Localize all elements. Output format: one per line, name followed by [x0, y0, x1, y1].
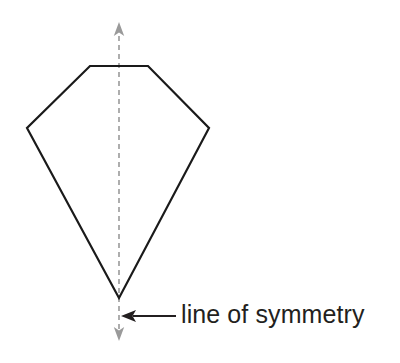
symmetry-arrowhead-top-icon	[114, 22, 124, 36]
pentagon-shape	[27, 66, 209, 298]
symmetry-arrowhead-bottom-icon	[114, 327, 124, 341]
line-of-symmetry-label: line of symmetry	[181, 299, 365, 329]
pointer-arrow-group	[121, 310, 176, 322]
geometry-figure: line of symmetry	[0, 0, 400, 363]
